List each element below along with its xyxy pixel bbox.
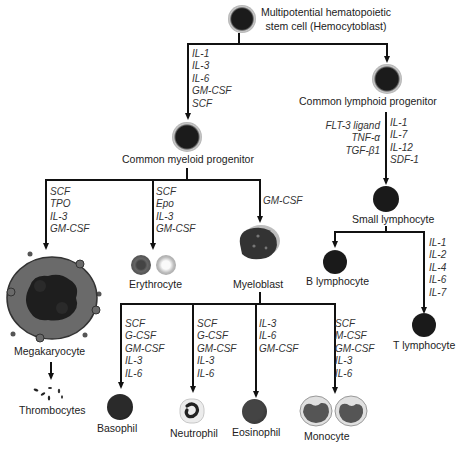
- connector: [120, 303, 122, 384]
- thrombocytes-label: Thrombocytes: [19, 404, 86, 416]
- monocyte-label: Monocyte: [304, 430, 350, 442]
- connector: [186, 168, 188, 179]
- arrow-to-myeloblast: [257, 216, 263, 223]
- myeloblast-label: Myeloblast: [233, 278, 283, 290]
- connector: [192, 303, 194, 388]
- megakaryocyte-label: Megakaryocyte: [14, 345, 85, 357]
- cytokines-to-basophil: SCF G-CSF GM-CSF IL-3 IL-6: [125, 318, 164, 380]
- neutrophil-label: Neutrophil: [170, 427, 218, 439]
- cytokines-to-neutrophil: SCF G-CSF GM-CSF IL-3 IL-6: [197, 318, 236, 380]
- cytokines-to-erythrocyte: SCF Epo IL-3 GM-CSF: [156, 186, 195, 236]
- cytokines-lymphoid-right: IL-1 IL-7 IL-12 SDF-1: [390, 117, 419, 167]
- thrombocytes-icon: [32, 385, 68, 401]
- arrow-to-megakaryocyte: [43, 243, 49, 250]
- connector: [45, 179, 47, 245]
- connector: [152, 179, 154, 245]
- lymphoid-progenitor-label: Common lymphoid progenitor: [299, 95, 437, 107]
- arrow-to-small-lymphocyte: [383, 178, 389, 185]
- monocyte-icon: [299, 394, 369, 428]
- b-lymphocyte-label: B lymphocyte: [306, 275, 369, 287]
- cytokines-to-megakaryocyte: SCF TPO IL-3 GM-CSF: [50, 186, 89, 236]
- erythrocyte-icon-2: [156, 255, 176, 275]
- cytokines-stem-to-myeloid: IL-1 IL-3 IL-6 GM-CSF SCF: [192, 48, 231, 110]
- b-lymphocyte-icon: [323, 250, 347, 274]
- eosinophil-label: Eosinophil: [232, 426, 280, 438]
- arrow-to-myeloid: [185, 113, 191, 120]
- basophil-label: Basophil: [97, 422, 137, 434]
- arrow-to-basophil: [118, 382, 124, 389]
- stem-cell-label-1: Multipotential hematopoietic: [256, 6, 396, 18]
- connector: [255, 303, 257, 393]
- myeloid-progenitor-icon: [172, 122, 202, 152]
- arrow-to-thrombocytes: [48, 373, 54, 380]
- small-lymphocyte-label: Small lymphocyte: [352, 213, 434, 225]
- lymphoid-progenitor-icon: [372, 64, 402, 94]
- connector: [423, 231, 425, 309]
- cytokines-to-t-lymphocyte: IL-1 IL-2 IL-4 IL-6 IL-7: [429, 237, 446, 299]
- connector: [334, 231, 424, 233]
- connector: [259, 292, 261, 303]
- stem-cell-label-2: stem cell (Hemocytoblast): [256, 20, 396, 32]
- cytokines-to-eosinophil: IL-3 IL-6 GM-CSF: [259, 318, 298, 355]
- connector: [238, 33, 240, 43]
- hematopoiesis-diagram: Multipotential hematopoietic stem cell (…: [0, 0, 458, 449]
- neutrophil-icon: [179, 398, 205, 424]
- megakaryocyte-icon: [0, 250, 104, 342]
- arrow-to-neutrophil: [190, 386, 196, 393]
- connector: [259, 179, 261, 218]
- arrow-to-monocyte: [332, 387, 338, 394]
- myeloblast-icon: [236, 224, 282, 262]
- connector: [187, 43, 189, 115]
- cytokines-lymphoid-left: FLT-3 ligand TNF-α TGF-β1: [300, 120, 380, 157]
- connector: [120, 303, 336, 305]
- arrow-to-lymphoid: [384, 56, 390, 63]
- arrow-to-eosinophil: [253, 391, 259, 398]
- connector: [187, 43, 387, 45]
- eosinophil-icon: [242, 399, 267, 424]
- erythrocyte-label: Erythrocyte: [129, 278, 182, 290]
- basophil-icon: [107, 394, 133, 420]
- arrow-to-b-lymphocyte: [332, 241, 338, 248]
- arrow-to-erythrocyte: [150, 243, 156, 250]
- connector: [385, 112, 387, 180]
- myeloid-progenitor-label: Common myeloid progenitor: [122, 153, 254, 165]
- small-lymphocyte-icon: [373, 186, 399, 212]
- cytokines-to-monocyte: SCF M-CSF GM-CSF IL-3 IL-6: [335, 318, 374, 380]
- t-lymphocyte-icon: [412, 313, 436, 337]
- stem-cell-icon: [228, 5, 256, 33]
- erythrocyte-icon: [131, 255, 151, 275]
- cytokines-to-myeloblast: GM-CSF: [263, 195, 302, 207]
- t-lymphocyte-label: T lymphocyte: [393, 339, 455, 351]
